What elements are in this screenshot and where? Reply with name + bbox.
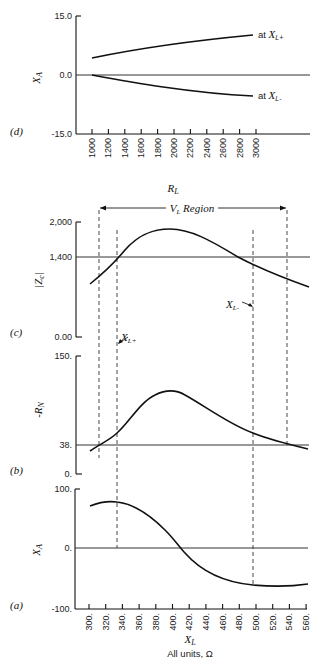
x-tick-label: 320. xyxy=(101,613,111,631)
x-tick-label: 480. xyxy=(234,613,244,631)
y-axis-label: |Zc| xyxy=(32,272,46,288)
curve-zc xyxy=(90,229,309,287)
ytick-1400: 1,400 xyxy=(49,252,72,262)
units-label: All units, Ω xyxy=(167,648,213,659)
x-tick-label: 2600 xyxy=(218,138,228,158)
x-tick-label: 2000 xyxy=(169,138,179,158)
curve-rn xyxy=(90,391,308,451)
x-tick-label: 1000 xyxy=(87,138,97,158)
x-tick-label: 460. xyxy=(218,613,228,631)
panel-label: (a) xyxy=(10,599,23,612)
panel-a: 100. 0. -100. XA (a) 300.320.340.360.380… xyxy=(10,484,311,659)
vl-region-label: VL Region xyxy=(170,202,215,216)
ytick-150: 150. xyxy=(54,351,72,361)
ytick-0: 0. xyxy=(64,469,72,479)
y-axis-label: XA xyxy=(30,72,44,85)
ytick-0: 0. xyxy=(64,543,72,553)
panel-b: 150. 38. 0. -RN (b) XL+ xyxy=(10,331,309,479)
ytick-neg100: -100. xyxy=(51,604,72,614)
x-tick-label: 540. xyxy=(284,613,294,631)
x-tick-label: 2800 xyxy=(235,138,245,158)
x-tick-label: 440. xyxy=(201,613,211,631)
x-ticks: 300.320.340.360.380.400.420.440.460.480.… xyxy=(84,604,311,631)
x-tick-label: 3000 xyxy=(251,138,261,158)
x-axis-label: XL xyxy=(183,633,196,647)
x-tick-label: 2400 xyxy=(202,138,212,158)
ytick-0: 0.00 xyxy=(54,332,72,342)
x-tick-label: 1400 xyxy=(120,138,130,158)
x-tick-label: 2200 xyxy=(185,138,195,158)
x-tick-label: 520. xyxy=(268,613,278,631)
x-tick-label: 420. xyxy=(184,613,194,631)
curve-xa xyxy=(90,502,308,586)
ytick-15: 15.0 xyxy=(54,11,72,21)
ytick-neg15: -15.0 xyxy=(51,129,72,139)
ytick-2000: 2,000 xyxy=(49,217,72,227)
x-tick-label: 560. xyxy=(301,613,311,631)
label-xl-plus: XL+ xyxy=(120,331,137,345)
label-xl-plus: at XL+ xyxy=(258,28,283,41)
y-axis-label: XA xyxy=(30,544,44,557)
x-tick-label: 380. xyxy=(151,613,161,631)
panel-c: 2,000 1,400 0.00 |Zc| (c) VL Region XL- xyxy=(10,202,310,342)
label-xl-minus: at XL- xyxy=(258,89,282,102)
x-tick-label: 500. xyxy=(251,613,261,631)
panel-label: (b) xyxy=(10,464,23,477)
x-tick-label: 360. xyxy=(134,613,144,631)
x-tick-label: 1200 xyxy=(103,138,113,158)
x-tick-label: 1800 xyxy=(153,138,163,158)
x-tick-label: 400. xyxy=(168,613,178,631)
curve-xl-minus xyxy=(92,75,253,96)
x-axis-label: RL xyxy=(166,182,179,196)
panel-label: (d) xyxy=(10,125,23,138)
label-xl-minus: XL- xyxy=(225,298,240,312)
figure-canvas: 15.0 0.0 -15.0 XA (d) 100012001400160018… xyxy=(0,0,322,666)
x-tick-label: 1600 xyxy=(136,138,146,158)
ytick-0: 0.0 xyxy=(59,70,72,80)
panel-d: 15.0 0.0 -15.0 XA (d) 100012001400160018… xyxy=(10,11,310,196)
ytick-100: 100. xyxy=(54,484,72,494)
x-tick-label: 300. xyxy=(84,613,94,631)
y-axis-label: -RN xyxy=(32,401,46,417)
panel-label: (c) xyxy=(10,326,23,339)
x-tick-label: 340. xyxy=(117,613,127,631)
x-ticks: 1000120014001600180020002200240026002800… xyxy=(87,129,261,158)
curve-xl-plus xyxy=(92,35,253,58)
ytick-38: 38. xyxy=(59,440,72,450)
